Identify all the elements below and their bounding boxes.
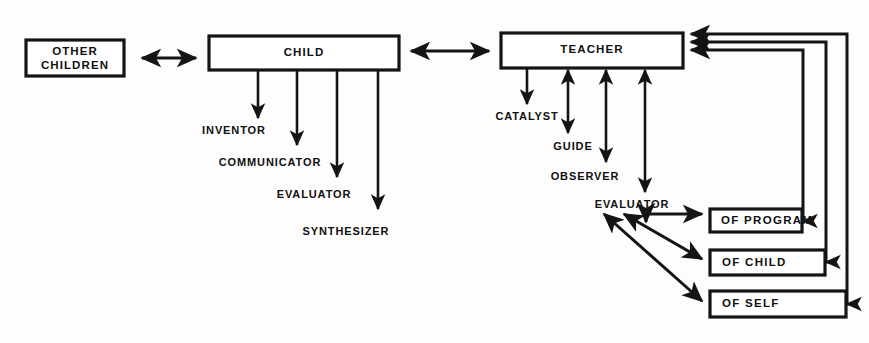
child-role-label-synthesizer: SYNTHESIZER xyxy=(303,225,390,237)
child-role-label-inventor: INVENTOR xyxy=(202,124,266,136)
box-of-child[interactable]: OF CHILD xyxy=(710,250,825,275)
box-teacher[interactable]: TEACHER xyxy=(501,33,683,68)
feedback-of-program-to-teacher xyxy=(691,50,803,221)
of-self-label: OF SELF xyxy=(722,297,780,309)
teacher-label: TEACHER xyxy=(560,43,623,55)
child-role-label-evaluator: EVALUATOR xyxy=(277,188,352,200)
box-child[interactable]: CHILD xyxy=(209,36,399,70)
box-other-children[interactable]: OTHER CHILDREN xyxy=(26,40,124,76)
teacher-role-label-catalyst: CATALYST xyxy=(495,110,558,122)
teacher-role-label-guide: GUIDE xyxy=(553,140,592,152)
box-of-program[interactable]: OF PROGRAM xyxy=(710,209,813,232)
diagram-canvas: OTHER CHILDREN CHILD TEACHER INVENTOR CO… xyxy=(0,0,869,343)
other-children-label-line2: CHILDREN xyxy=(41,59,109,71)
teacher-role-label-observer: OBSERVER xyxy=(551,170,620,182)
arrow-evaluator-to-of-program xyxy=(646,214,702,222)
box-of-self[interactable]: OF SELF xyxy=(710,291,846,317)
diagram-svg: OTHER CHILDREN CHILD TEACHER INVENTOR CO… xyxy=(0,0,869,343)
of-program-label: OF PROGRAM xyxy=(721,214,813,226)
arrow-evaluator-to-of-self xyxy=(604,214,702,301)
other-children-label-line1: OTHER xyxy=(52,45,98,57)
of-child-label: OF CHILD xyxy=(722,256,787,268)
child-label: CHILD xyxy=(284,46,325,58)
child-role-label-communicator: COMMUNICATOR xyxy=(219,156,322,168)
teacher-role-label-evaluator: EVALUATOR xyxy=(595,198,670,210)
arrow-evaluator-to-of-child xyxy=(624,214,702,259)
